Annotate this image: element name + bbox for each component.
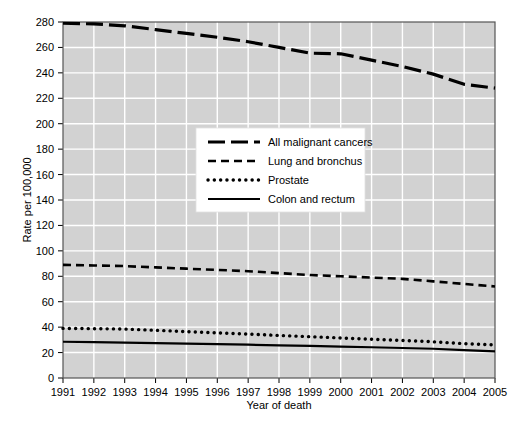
legend-label-3: Prostate (268, 174, 309, 186)
legend-label-2: Lung and bronchus (268, 155, 363, 167)
y-tick-label: 0 (48, 372, 54, 384)
y-tick-label: 100 (36, 245, 54, 257)
y-tick-label: 220 (36, 92, 54, 104)
x-tick-label: 1996 (205, 386, 229, 398)
x-tick-label: 2005 (483, 386, 507, 398)
chart-container: 020406080100120140160180200220240260280 … (0, 0, 530, 431)
y-tick-label: 120 (36, 219, 54, 231)
line-chart: 020406080100120140160180200220240260280 … (0, 0, 530, 431)
y-tick-label: 200 (36, 118, 54, 130)
x-tick-label: 1993 (112, 386, 136, 398)
y-tick-label: 260 (36, 41, 54, 53)
x-tick-label: 1998 (267, 386, 291, 398)
y-tick-label: 80 (42, 270, 54, 282)
y-tick-label: 160 (36, 169, 54, 181)
x-tick-label: 1991 (51, 386, 75, 398)
x-tick-label: 1999 (298, 386, 322, 398)
y-tick-label: 180 (36, 143, 54, 155)
x-tick-label: 2004 (452, 386, 476, 398)
x-tick-label: 1995 (174, 386, 198, 398)
y-tick-label: 280 (36, 16, 54, 28)
y-tick-label: 140 (36, 194, 54, 206)
legend-label-1: All malignant cancers (268, 136, 373, 148)
x-tick-label: 1992 (82, 386, 106, 398)
x-tick-label: 2001 (359, 386, 383, 398)
x-tick-label: 2002 (390, 386, 414, 398)
y-tick-label: 40 (42, 321, 54, 333)
x-tick-label: 2000 (328, 386, 352, 398)
y-tick-label: 240 (36, 67, 54, 79)
y-axis-title: Rate per 100,000 (21, 157, 33, 242)
x-tick-label: 1994 (143, 386, 167, 398)
chart-legend: All malignant cancersLung and bronchusPr… (196, 128, 373, 212)
legend-label-4: Colon and rectum (268, 193, 355, 205)
x-axis-title: Year of death (246, 399, 311, 411)
x-axis-tick-labels: 1991199219931994199519961997199819992000… (51, 386, 507, 398)
x-tick-label: 1997 (236, 386, 260, 398)
y-tick-label: 20 (42, 347, 54, 359)
x-tick-label: 2003 (421, 386, 445, 398)
y-tick-label: 60 (42, 296, 54, 308)
